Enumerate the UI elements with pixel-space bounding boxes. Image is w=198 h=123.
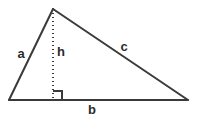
label-side-a: a	[17, 47, 24, 60]
label-side-c: c	[120, 40, 127, 53]
label-side-b: b	[88, 103, 96, 116]
right-angle-marker-icon	[53, 91, 62, 100]
triangle-svg	[0, 0, 198, 123]
side-c-line	[53, 9, 188, 100]
label-altitude-h: h	[57, 45, 65, 58]
side-a-line	[9, 9, 53, 100]
triangle-diagram: a h c b	[0, 0, 198, 123]
